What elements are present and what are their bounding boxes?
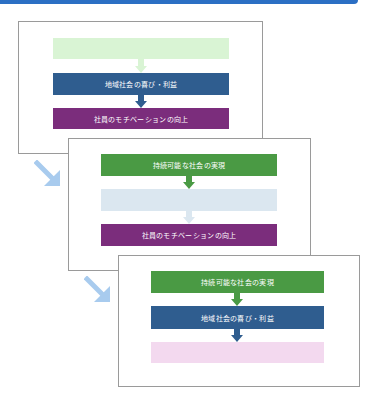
- box-sustainable: 持続可能な社会の実現: [101, 154, 277, 176]
- box-community: 地域社会の喜び・利益: [53, 73, 229, 95]
- slide-2: 持続可能な社会の実現 社員のモチベーションの向上: [68, 138, 311, 271]
- box-motivation: 社員のモチベーションの向上: [101, 224, 277, 246]
- box-motivation: 社員のモチベーションの向上: [53, 108, 229, 129]
- slide-3: 持続可能な社会の実現 地域社会の喜び・利益: [118, 255, 360, 387]
- diagonal-arrow-icon: [84, 276, 112, 304]
- diagonal-arrow-icon: [34, 160, 62, 188]
- box-motivation-faded: [151, 342, 324, 363]
- box-community: 地域社会の喜び・利益: [151, 306, 324, 329]
- slide-1: 地域社会の喜び・利益 社員のモチベーションの向上: [18, 21, 263, 154]
- box-community-faded: [101, 189, 277, 211]
- top-accent-bar: [0, 0, 358, 4]
- box-sustainable-faded: [53, 38, 229, 59]
- box-sustainable: 持続可能な社会の実現: [151, 271, 324, 293]
